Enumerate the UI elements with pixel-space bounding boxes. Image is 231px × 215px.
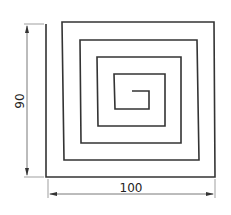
spiral-technical-drawing: 90 100 (0, 0, 231, 215)
arrow-right-icon (206, 192, 214, 196)
height-label: 90 (13, 93, 27, 108)
arrow-left-icon (49, 192, 57, 196)
width-dimension: 100 (48, 179, 215, 198)
arrow-down-icon (25, 168, 29, 176)
height-dimension: 90 (13, 24, 44, 177)
width-label: 100 (120, 181, 143, 195)
arrow-up-icon (25, 25, 29, 33)
spiral-path (46, 22, 215, 177)
